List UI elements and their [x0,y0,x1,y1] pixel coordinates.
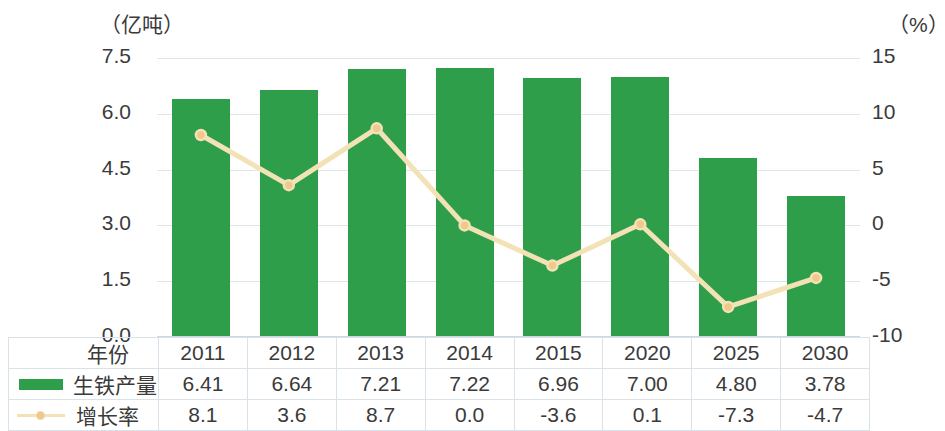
year-cell: 2011 [159,338,248,369]
year-cell: 2025 [692,338,781,369]
growth-cell: 8.7 [336,400,425,431]
data-point-marker [284,180,294,190]
right-tick-label: 0 [872,211,884,235]
row-label-year: 年份 [73,338,158,368]
line-series-growth-rate [157,58,860,337]
year-cell: 2013 [336,338,425,369]
data-point-marker [547,261,557,271]
right-tick-label: 15 [872,44,895,68]
growth-cell: -3.6 [514,400,603,431]
left-tick-label: 6.0 [102,100,131,124]
table-row-year: 年份 20112012201320142015202020252030 [9,338,870,369]
output-cell: 3.78 [781,369,870,400]
year-cell: 2030 [781,338,870,369]
output-cell: 7.00 [603,369,692,400]
line-marker-icon [36,411,45,420]
bar-swatch-icon [19,379,63,390]
left-tick-label: 3.0 [102,211,131,235]
data-point-marker [723,302,733,312]
table-row-growth: 增长率 8.13.68.70.0-3.60.1-7.3-4.7 [9,400,870,431]
output-cell: 6.41 [159,369,248,400]
right-axis-ticks: 151050-5-10 [872,0,945,429]
row-header-growth: 增长率 [9,400,159,431]
row-label-growth: 增长率 [73,400,158,430]
row-header-year: 年份 [9,338,159,369]
growth-cell: -7.3 [692,400,781,431]
legend-swatch-bar [9,369,73,399]
growth-cell: 3.6 [247,400,336,431]
data-point-marker [635,219,645,229]
data-table: 年份 20112012201320142015202020252030 生铁产量… [8,337,870,431]
growth-cell: 0.0 [425,400,514,431]
data-point-marker [811,273,821,283]
left-tick-label: 7.5 [102,44,131,68]
data-point-marker [372,123,382,133]
plot-area [157,58,860,337]
right-tick-label: 5 [872,156,884,180]
output-cell: 6.96 [514,369,603,400]
right-tick-label: 10 [872,100,895,124]
growth-rate-polyline [201,128,816,307]
right-tick-label: -5 [872,267,891,291]
row-label-output: 生铁产量 [73,369,159,399]
table-row-output: 生铁产量 6.416.647.217.226.967.004.803.78 [9,369,870,400]
output-cell: 6.64 [247,369,336,400]
output-cell: 7.22 [425,369,514,400]
row-header-output: 生铁产量 [9,369,159,400]
left-tick-label: 1.5 [102,267,131,291]
growth-cell: 0.1 [603,400,692,431]
right-tick-label: -10 [872,323,902,347]
growth-cell: 8.1 [159,400,248,431]
legend-swatch-line [9,400,73,430]
year-cell: 2015 [514,338,603,369]
left-tick-label: 4.5 [102,156,131,180]
year-cell: 2020 [603,338,692,369]
legend-slot-empty [9,338,73,368]
year-cell: 2012 [247,338,336,369]
growth-cell: -4.7 [781,400,870,431]
year-cell: 2014 [425,338,514,369]
data-point-marker [196,130,206,140]
data-point-marker [460,220,470,230]
output-cell: 7.21 [336,369,425,400]
output-cell: 4.80 [692,369,781,400]
